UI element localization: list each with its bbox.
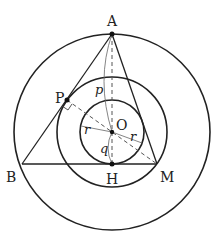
point-H: [110, 162, 115, 167]
radius-r-right: [112, 132, 142, 143]
point-O: [110, 130, 114, 134]
label-O: O: [116, 117, 127, 133]
arc-q: [108, 132, 112, 164]
label-p: p: [95, 82, 104, 97]
label-H: H: [106, 171, 118, 187]
geometry-diagram: A B M H O P p q r r: [0, 0, 217, 233]
label-A: A: [106, 13, 118, 29]
label-M: M: [160, 169, 174, 185]
label-q: q: [100, 141, 108, 156]
label-r-right: r: [130, 129, 137, 144]
label-P: P: [55, 90, 64, 106]
label-B: B: [6, 169, 16, 185]
point-P: [65, 98, 70, 103]
point-A: [110, 32, 115, 37]
segment-AM: [112, 34, 157, 164]
arc-p: [104, 34, 112, 132]
label-r-left: r: [84, 122, 91, 137]
